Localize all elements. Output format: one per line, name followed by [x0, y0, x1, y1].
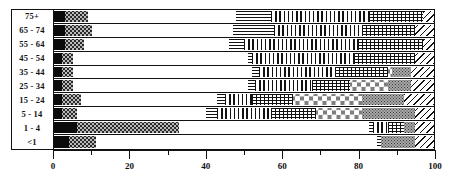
bar-segment — [54, 11, 65, 22]
bar-segment — [69, 136, 96, 148]
x-axis-tick-minor — [244, 150, 245, 155]
bar-segment — [255, 80, 312, 91]
bar-segment — [229, 39, 244, 50]
stacked-bar — [54, 39, 434, 50]
bar-segment — [415, 136, 434, 148]
bar-segment — [65, 11, 88, 22]
y-axis-label: 45 - 54 — [11, 54, 53, 63]
bar-segment — [404, 122, 415, 133]
stacked-bar-chart: 75+65 - 7455 - 6445 - 5435 - 4425 - 3415… — [0, 0, 461, 187]
bar-rows — [54, 10, 434, 149]
bar-segment — [73, 80, 248, 91]
bar-segment — [271, 11, 370, 22]
stacked-bar — [54, 67, 434, 78]
table-row — [54, 121, 434, 135]
bar-segment — [423, 11, 434, 22]
bar-segment — [381, 136, 415, 148]
x-axis-tick-minor — [168, 150, 169, 155]
bar-segment — [65, 39, 84, 50]
bar-segment — [233, 25, 275, 36]
y-axis-label: 5 - 14 — [11, 110, 53, 119]
bar-segment — [259, 67, 335, 78]
x-axis-tick-label: 100 — [428, 161, 442, 171]
bar-segment — [411, 67, 434, 78]
bar-segment — [96, 136, 377, 148]
bar-segment — [316, 108, 362, 119]
x-axis-tick-major — [282, 150, 283, 159]
bar-segment — [388, 80, 411, 91]
y-axis-label: 1 - 4 — [11, 124, 53, 133]
bar-segment — [88, 11, 236, 22]
table-row — [54, 24, 434, 38]
bar-segment — [54, 25, 65, 36]
bar-segment — [271, 108, 317, 119]
bar-segment — [92, 25, 233, 36]
bar-segment — [312, 80, 350, 91]
bar-segment — [404, 94, 434, 105]
bar-segment — [252, 67, 260, 78]
bar-segment — [362, 108, 415, 119]
bar-segment — [77, 122, 180, 133]
x-axis-tick-minor — [397, 150, 398, 155]
x-axis-tick-label: 80 — [354, 161, 363, 171]
stacked-bar — [54, 108, 434, 119]
plot-area — [53, 9, 435, 150]
bar-segment — [362, 94, 404, 105]
bar-segment — [350, 80, 388, 91]
bar-segment — [274, 25, 361, 36]
table-row — [54, 66, 434, 80]
bar-segment — [54, 122, 77, 133]
x-axis-tick-major — [206, 150, 207, 159]
bar-segment — [388, 122, 403, 133]
y-axis-label: 25 - 34 — [11, 82, 53, 91]
bar-segment — [369, 11, 422, 22]
bar-segment — [415, 53, 434, 64]
table-row — [54, 38, 434, 52]
stacked-bar — [54, 11, 434, 22]
bar-segment — [54, 136, 69, 148]
stacked-bar — [54, 136, 434, 148]
x-axis-tick-minor — [320, 150, 321, 155]
bar-segment — [236, 11, 270, 22]
bar-segment — [411, 80, 434, 91]
bar-segment — [81, 94, 218, 105]
stacked-bar — [54, 94, 434, 105]
bar-segment — [77, 108, 206, 119]
table-row — [54, 10, 434, 24]
x-axis-tick-major — [359, 150, 360, 159]
bar-segment — [62, 108, 77, 119]
bar-segment — [54, 39, 65, 50]
bar-segment — [335, 67, 388, 78]
bar-segment — [54, 80, 62, 91]
x-axis-tick-major — [53, 150, 54, 159]
stacked-bar — [54, 53, 434, 64]
table-row — [54, 107, 434, 121]
y-axis-label: 65 - 74 — [11, 26, 53, 35]
bar-segment — [373, 122, 388, 133]
bar-segment — [293, 94, 361, 105]
bar-segment — [217, 108, 270, 119]
table-row — [54, 79, 434, 93]
bar-segment — [65, 25, 92, 36]
y-axis-label: 75+ — [11, 12, 53, 21]
table-row — [54, 135, 434, 149]
stacked-bar — [54, 80, 434, 91]
x-axis-tick-label: 60 — [278, 161, 287, 171]
bar-segment — [62, 67, 73, 78]
y-axis-label: 55 - 64 — [11, 40, 53, 49]
y-axis-label: <1 — [11, 138, 53, 147]
bar-segment — [73, 53, 248, 64]
bar-segment — [392, 67, 411, 78]
table-row — [54, 52, 434, 66]
stacked-bar — [54, 122, 434, 133]
y-axis-label: 15 - 24 — [11, 96, 53, 105]
bar-segment — [225, 94, 252, 105]
bar-segment — [358, 39, 423, 50]
bar-segment — [206, 108, 217, 119]
bar-segment — [73, 67, 252, 78]
bar-segment — [362, 25, 415, 36]
bar-segment — [54, 108, 62, 119]
x-axis-tick-label: 20 — [125, 161, 134, 171]
table-row — [54, 93, 434, 107]
y-axis-label: 35 - 44 — [11, 68, 53, 77]
